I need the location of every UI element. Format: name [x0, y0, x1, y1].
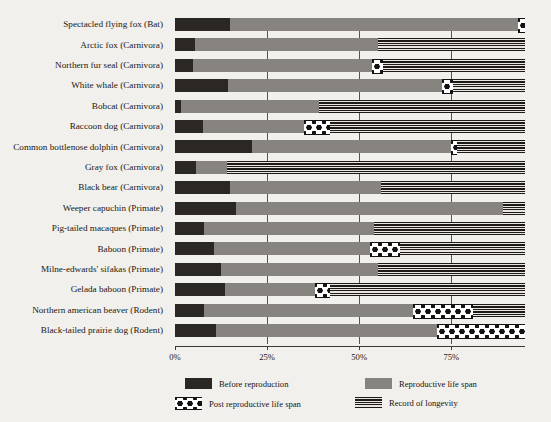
bar-segment-repro — [228, 79, 442, 92]
bar-segment-before — [175, 202, 236, 215]
bar-segment-before — [175, 59, 193, 72]
bar-row — [175, 140, 525, 153]
bar-segment-repro — [204, 304, 412, 317]
legend-label: Reproductive life span — [399, 379, 477, 389]
category-label: Raccoon dog (Carnivora) — [0, 121, 163, 132]
bar-segment-repro — [230, 181, 381, 194]
bar-segment-post — [437, 324, 525, 339]
bar-row — [175, 304, 525, 317]
category-label: Northern american beaver (Rodent) — [0, 305, 163, 316]
legend-label: Record of longevity — [389, 398, 458, 408]
bar-segment-before — [175, 283, 225, 296]
bar-segment-longev — [473, 304, 525, 317]
legend-swatch-post — [175, 397, 202, 410]
x-tick — [451, 346, 452, 350]
x-axis-line — [175, 346, 525, 347]
bar-row — [175, 181, 525, 194]
bar-segment-longev — [330, 283, 525, 296]
category-label: Black bear (Carnivora) — [0, 182, 163, 193]
bar-segment-longev — [457, 140, 525, 153]
bar-segment-repro — [236, 202, 503, 215]
bar-row — [175, 161, 525, 174]
bar-row — [175, 222, 525, 235]
x-tick-label: 0% — [169, 352, 180, 362]
bar-segment-before — [175, 120, 203, 133]
bar-row — [175, 38, 525, 51]
bar-segment-before — [175, 242, 214, 255]
category-label: Gelada baboon (Primate) — [0, 284, 163, 295]
bar-segment-repro — [230, 18, 517, 31]
bar-segment-post — [518, 18, 525, 33]
legend-item-repro[interactable]: Reproductive life span — [365, 378, 477, 389]
bar-segment-repro — [221, 263, 378, 276]
bar-segment-before — [175, 140, 252, 153]
bar-segment-repro — [204, 222, 373, 235]
legend-label: Post reproductive life span — [209, 399, 301, 409]
legend-item-before[interactable]: Before reproduction — [185, 378, 288, 389]
bar-segment-longev — [319, 100, 525, 113]
x-tick-label: 75% — [443, 352, 459, 362]
legend-swatch-before — [185, 378, 212, 389]
bar-segment-repro — [196, 161, 227, 174]
legend-swatch-repro — [365, 378, 392, 389]
bar-segment-repro — [225, 283, 315, 296]
category-label: Pig-tailed macaques (Primate) — [0, 223, 163, 234]
bar-row — [175, 120, 525, 133]
bar-segment-repro — [195, 38, 377, 51]
bar-segment-repro — [203, 120, 304, 133]
bar-segment-post — [315, 283, 330, 298]
bar-row — [175, 202, 525, 215]
bar-row — [175, 79, 525, 92]
bar-segment-post — [370, 242, 399, 257]
category-label: Arctic fox (Carnivora) — [0, 40, 163, 51]
bar-segment-post — [413, 304, 474, 319]
bar-segment-before — [175, 79, 228, 92]
bar-row — [175, 283, 525, 296]
bar-segment-post — [372, 59, 383, 74]
bar-segment-longev — [400, 242, 525, 255]
bar-segment-before — [175, 161, 196, 174]
bar-segment-longev — [227, 161, 525, 174]
category-label: Weeper capuchin (Primate) — [0, 203, 163, 214]
bar-segment-before — [175, 38, 195, 51]
bar-segment-longev — [381, 181, 525, 194]
chart-legend: Before reproductionReproductive life spa… — [175, 378, 525, 416]
category-label: Spectacled flying fox (Bat) — [0, 19, 163, 30]
category-label: Milne-edwards' sifakas (Primate) — [0, 264, 163, 275]
category-label: White whale (Carnivora) — [0, 80, 163, 91]
bar-segment-repro — [252, 140, 451, 153]
bar-row — [175, 100, 525, 113]
category-label: Black-tailed prairie dog (Rodent) — [0, 325, 163, 336]
category-label: Baboon (Primate) — [0, 244, 163, 255]
x-tick-label: 25% — [259, 352, 275, 362]
legend-label: Before reproduction — [219, 379, 288, 389]
x-tick — [359, 346, 360, 350]
category-label: Bobcat (Carnivora) — [0, 101, 163, 112]
bar-row — [175, 324, 525, 337]
x-tick — [175, 346, 176, 350]
bar-row — [175, 59, 525, 72]
legend-item-longev[interactable]: Record of longevity — [355, 397, 458, 408]
bar-segment-before — [175, 181, 230, 194]
bar-row — [175, 18, 525, 31]
bar-segment-longev — [378, 38, 525, 51]
x-tick — [267, 346, 268, 350]
plot-area — [175, 18, 525, 344]
legend-item-post[interactable]: Post reproductive life span — [175, 397, 301, 410]
bar-segment-longev — [330, 120, 525, 133]
bar-segment-repro — [193, 59, 372, 72]
bar-segment-before — [175, 324, 216, 337]
bar-segment-repro — [214, 242, 370, 255]
category-label: Common bottlenose dolphin (Carnivora) — [0, 142, 163, 153]
bar-segment-post — [442, 79, 453, 94]
bar-segment-before — [175, 263, 221, 276]
bar-segment-longev — [378, 263, 525, 276]
bar-segment-longev — [383, 59, 525, 72]
bar-segment-longev — [374, 222, 525, 235]
bar-segment-repro — [216, 324, 437, 337]
bar-segment-before — [175, 304, 204, 317]
category-label: Northern fur seal (Carnivora) — [0, 60, 163, 71]
bar-segment-post — [304, 120, 330, 135]
bar-segment-before — [175, 222, 204, 235]
bar-segment-repro — [181, 100, 318, 113]
